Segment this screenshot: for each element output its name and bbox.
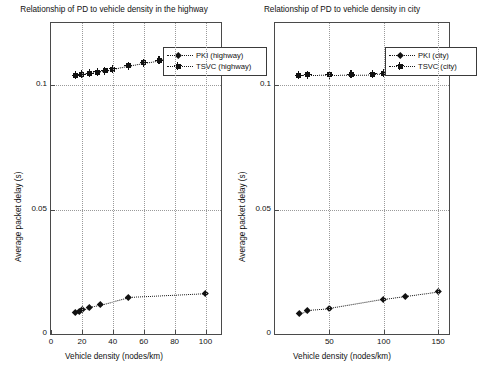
gridline-vertical	[82, 23, 83, 334]
legend-city: PKI (city) TSVC (city)	[385, 47, 477, 76]
legend-label-tsvc-city: TSVC (city)	[418, 61, 472, 72]
chart-title-city: Relationship of PD to vehicle density in…	[228, 4, 456, 15]
legend-marker-star-icon	[167, 62, 193, 71]
x-axis-label-highway: Vehicle density (nodes/km)	[0, 352, 228, 361]
data-point-marker	[349, 72, 354, 77]
legend-marker-diamond-icon	[167, 51, 193, 60]
y-tick-label: 0.1	[231, 79, 271, 88]
y-axis-label-city: Average packet delay (s)	[238, 172, 247, 262]
series-line-segment	[329, 299, 384, 309]
data-point-marker	[126, 63, 131, 68]
gridline-horizontal	[51, 85, 221, 86]
y-tick-label: 0.1	[7, 79, 47, 88]
chart-title-highway: Relationship of PD to vehicle density in…	[0, 4, 228, 15]
legend-label-pki-city: PKI (city)	[418, 50, 472, 61]
y-tick-label: 0	[7, 328, 47, 337]
y-tick-label: 0	[231, 328, 271, 337]
gridline-vertical	[144, 23, 145, 334]
data-point-marker	[97, 301, 103, 307]
y-tick-label: 0.05	[231, 204, 271, 213]
y-tick-mark	[51, 210, 55, 211]
plot-area-highway: PKI (highway) TSVC (highway) 02040608010…	[50, 22, 222, 335]
x-tick-label: 150	[418, 334, 458, 346]
data-point-marker	[370, 72, 375, 77]
gridline-vertical	[384, 23, 385, 334]
data-point-marker	[296, 73, 301, 78]
data-point-marker	[86, 304, 92, 310]
data-point-marker	[103, 68, 108, 73]
gridline-horizontal	[51, 210, 221, 211]
y-tick-mark	[275, 210, 279, 211]
x-tick-label: 100	[364, 334, 404, 346]
data-point-marker	[157, 58, 162, 63]
panel-city: Relationship of PD to vehicle density in…	[228, 0, 456, 378]
data-point-marker	[305, 72, 310, 77]
data-point-marker	[125, 294, 131, 300]
legend-entry-pki-city: PKI (city)	[389, 50, 472, 61]
gridline-horizontal	[275, 210, 449, 211]
x-axis-label-city: Vehicle density (nodes/km)	[228, 352, 456, 361]
series-line-segment	[100, 297, 128, 305]
x-tick-label: 50	[309, 334, 349, 346]
gridline-vertical	[329, 23, 330, 334]
data-point-marker	[95, 70, 100, 75]
legend-marker-star-icon	[389, 62, 415, 71]
y-tick-mark	[275, 334, 279, 335]
series-line-segment	[128, 293, 205, 298]
legend-marker-diamond-icon	[389, 51, 415, 60]
panel-highway: Relationship of PD to vehicle density in…	[0, 0, 228, 378]
y-axis-label-highway: Average packet delay (s)	[14, 172, 23, 262]
data-point-marker	[87, 71, 92, 76]
data-point-marker	[304, 307, 310, 313]
data-point-marker	[296, 310, 302, 316]
x-tick-label: 100	[186, 334, 226, 346]
gridline-horizontal	[275, 85, 449, 86]
series-line-segment	[405, 292, 438, 297]
y-tick-label: 0.05	[7, 204, 47, 213]
gridline-vertical	[175, 23, 176, 334]
data-point-marker	[402, 293, 408, 299]
y-tick-mark	[51, 334, 55, 335]
y-tick-mark	[275, 85, 279, 86]
plot-area-city: PKI (city) TSVC (city) 5010015000.050.1	[274, 22, 450, 335]
y-tick-mark	[51, 85, 55, 86]
gridline-vertical	[206, 23, 207, 334]
gridline-vertical	[113, 23, 114, 334]
gridline-vertical	[438, 23, 439, 334]
legend-entry-tsvc-city: TSVC (city)	[389, 61, 472, 72]
